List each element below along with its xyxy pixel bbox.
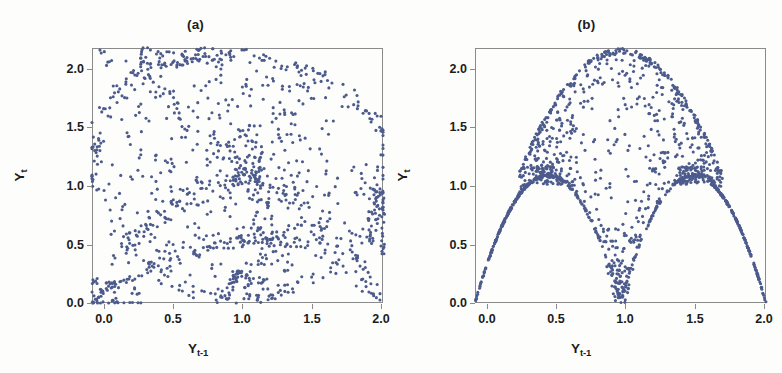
panel-b-yaxis-title-sub: t	[401, 170, 412, 173]
panel-b-ytick-mark-0.0	[470, 303, 475, 304]
panel-b-ytick-0.0: 0.0	[427, 296, 467, 310]
panel-b-xtick-0.0: 0.0	[478, 312, 495, 326]
panel-b-ytick-1.5: 1.5	[427, 120, 467, 134]
panel-a-ytick-mark-1.5	[87, 127, 92, 128]
panel-b-xaxis-title-base: Y	[571, 341, 580, 356]
panel-a-ytick-mark-1.0	[87, 186, 92, 187]
panel-b-xtick-mark-1.5	[695, 304, 696, 309]
panel-a-xaxis-title-sub: t-1	[197, 347, 208, 358]
panel-a-yaxis-title: Yt	[12, 170, 27, 182]
panel-b-ytick-mark-1.0	[470, 186, 475, 187]
panel-b-xtick-0.5: 0.5	[547, 312, 564, 326]
panel-a-xtick-mark-0.0	[104, 304, 105, 309]
panel-b-xtick-mark-1.0	[625, 304, 626, 309]
panel-b-ytick-mark-1.5	[470, 127, 475, 128]
panel-a-xtick-2.0: 2.0	[372, 312, 389, 326]
panel-b-xaxis-title-sub: t-1	[580, 347, 591, 358]
panel-a-ytick-0.5: 0.5	[44, 238, 84, 252]
panel-b-ytick-0.5: 0.5	[427, 238, 467, 252]
panel-b-ytick-1.0: 1.0	[427, 179, 467, 193]
panel-b-xtick-1.0: 1.0	[616, 312, 633, 326]
panel-a: (a) 2.0 1.5 1.0 0.5 0.0 0.0 0.5 1.0 1.5 …	[0, 0, 391, 373]
panel-b-xtick-1.5: 1.5	[686, 312, 703, 326]
panel-a-xtick-0.0: 0.0	[95, 312, 112, 326]
panel-b-xtick-2.0: 2.0	[755, 312, 772, 326]
panel-b-yaxis-title: Yt	[395, 170, 410, 182]
panel-a-xtick-mark-2.0	[381, 304, 382, 309]
panel-a-ytick-mark-0.5	[87, 245, 92, 246]
panel-b-xtick-mark-0.0	[487, 304, 488, 309]
panel-a-xtick-mark-0.5	[173, 304, 174, 309]
figure-container: (a) 2.0 1.5 1.0 0.5 0.0 0.0 0.5 1.0 1.5 …	[0, 0, 782, 373]
panel-a-ytick-0.0: 0.0	[44, 296, 84, 310]
panel-a-xaxis-title-base: Y	[188, 341, 197, 356]
panel-a-yaxis-title-sub: t	[18, 170, 29, 173]
panel-b-yaxis-title-base: Y	[395, 172, 410, 181]
panel-a-xtick-mark-1.5	[312, 304, 313, 309]
panel-b-xtick-mark-0.5	[556, 304, 557, 309]
panel-b-ytick-mark-0.5	[470, 245, 475, 246]
panel-a-ytick-1.5: 1.5	[44, 120, 84, 134]
panel-a-xtick-1.5: 1.5	[303, 312, 320, 326]
panel-a-ytick-mark-2.0	[87, 69, 92, 70]
panel-a-ytick-1.0: 1.0	[44, 179, 84, 193]
panel-a-xtick-1.0: 1.0	[233, 312, 250, 326]
panel-a-yaxis-title-base: Y	[12, 172, 27, 181]
panel-a-ytick-2.0: 2.0	[44, 62, 84, 76]
panel-b: (b) 2.0 1.5 1.0 0.5 0.0 0.0 0.5 1.0 1.5 …	[391, 0, 782, 373]
panel-a-xtick-mark-1.0	[242, 304, 243, 309]
panel-b-xtick-mark-2.0	[764, 304, 765, 309]
panel-b-xaxis-title: Yt-1	[571, 341, 591, 356]
panel-a-ytick-mark-0.0	[87, 303, 92, 304]
panel-a-xtick-0.5: 0.5	[164, 312, 181, 326]
panel-b-ytick-mark-2.0	[470, 69, 475, 70]
panel-b-ytick-2.0: 2.0	[427, 62, 467, 76]
panel-a-xaxis-title: Yt-1	[188, 341, 208, 356]
